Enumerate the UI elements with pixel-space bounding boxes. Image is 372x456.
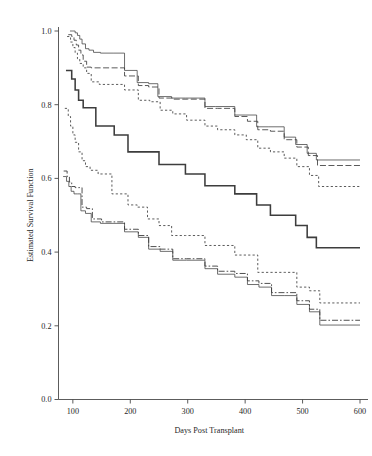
survival-curve-upper-group-solid [70, 31, 360, 160]
y-tick-label: 0.4 [41, 248, 51, 257]
y-tick-label: 0.8 [41, 101, 51, 110]
x-tick-label: 100 [67, 407, 79, 416]
x-tick-label: 500 [296, 407, 308, 416]
survival-curve-center-solid-bold [66, 70, 360, 247]
y-tick-label: 1.0 [41, 27, 51, 36]
survival-curve-upper-group-dashed [68, 35, 360, 166]
y-tick-label: 0.2 [41, 322, 51, 331]
survival-curves-group [63, 31, 360, 325]
plot-axes [59, 27, 369, 400]
survival-curve-lower-group-dashdot [64, 171, 360, 320]
y-tick-label: 0.6 [41, 174, 51, 183]
y-axis-title: Estimated Survival Function [26, 168, 35, 262]
survival-plot-svg: 0.00.20.40.60.81.0 100200300400500600 Es… [0, 0, 372, 456]
x-tick-label: 400 [239, 407, 251, 416]
x-tick-label: 600 [354, 407, 366, 416]
survival-curve-upper-group-dotted [67, 37, 360, 187]
survival-curve-lower-group-dotted [65, 108, 360, 303]
survival-chart-figure: 0.00.20.40.60.81.0 100200300400500600 Es… [0, 0, 372, 456]
x-axis-title: Days Post Transplant [174, 426, 244, 435]
x-tick-label: 300 [182, 407, 194, 416]
x-tick-label: 200 [124, 407, 136, 416]
y-tick-label: 0.0 [41, 395, 51, 404]
y-axis-ticks: 0.00.20.40.60.81.0 [41, 27, 58, 405]
survival-curve-lower-group-solid [63, 177, 360, 326]
x-axis-ticks: 100200300400500600 [67, 400, 366, 416]
